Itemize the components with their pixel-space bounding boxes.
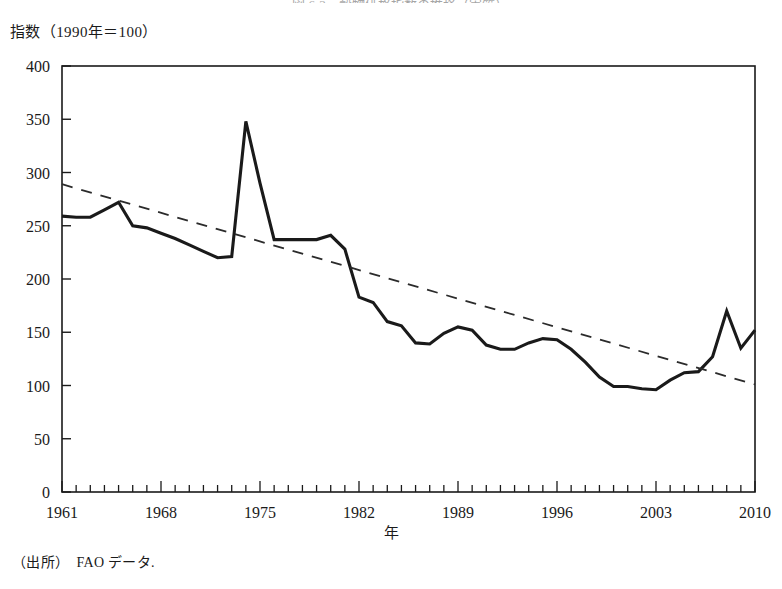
- y-axis-tick-label: 100: [26, 378, 50, 395]
- y-axis-tick-label: 0: [42, 484, 50, 501]
- x-axis-tick-label: 1989: [442, 504, 474, 521]
- trend-line-series: [62, 184, 755, 384]
- y-axis-tick-label: 150: [26, 324, 50, 341]
- x-axis-tick-label: 2003: [640, 504, 672, 521]
- y-axis-tick-label: 350: [26, 111, 50, 128]
- figure-container: 図 6-3 穀物価格指数の推移（実質） 指数（1990年＝100） 050100…: [0, 0, 782, 589]
- x-axis-tick-label: 1961: [46, 504, 78, 521]
- plot-frame: [62, 66, 755, 492]
- x-axis-tick-label: 2010: [739, 504, 771, 521]
- x-axis-label: 年: [0, 521, 782, 542]
- x-axis-tick-label: 1996: [541, 504, 573, 521]
- chart-plot-area: 0501001502002503003504001961196819751982…: [0, 0, 782, 589]
- y-axis-tick-label: 50: [34, 431, 50, 448]
- y-axis-tick-label: 300: [26, 165, 50, 182]
- x-axis-tick-label: 1968: [145, 504, 177, 521]
- x-axis-tick-label: 1975: [244, 504, 276, 521]
- source-note: （出所） FAO データ.: [12, 551, 155, 571]
- y-axis-tick-label: 250: [26, 218, 50, 235]
- x-axis-tick-label: 1982: [343, 504, 375, 521]
- y-axis-tick-label: 400: [26, 58, 50, 75]
- price-index-line-series: [62, 121, 755, 389]
- y-axis-tick-label: 200: [26, 271, 50, 288]
